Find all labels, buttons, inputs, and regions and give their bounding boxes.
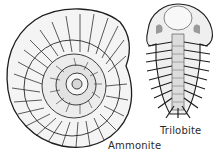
trilobite-label: Trilobite	[160, 125, 201, 136]
ammonite-label: Ammonite	[108, 140, 161, 151]
trilobite-drawing	[146, 4, 213, 118]
ammonite-drawing	[7, 9, 132, 147]
